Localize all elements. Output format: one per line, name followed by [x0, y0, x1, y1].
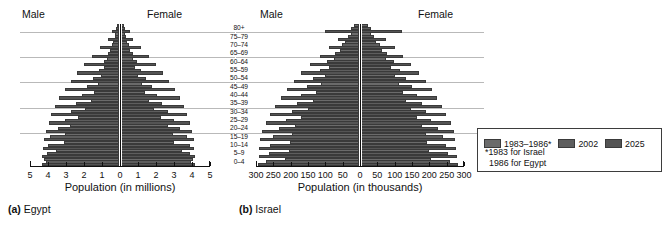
age-group-label: 65–69 [230, 49, 248, 56]
x-tick [429, 162, 430, 166]
bar-male-1986-20–24 [70, 124, 119, 127]
age-group-label: 15–19 [230, 133, 248, 140]
bar-female-2002-10–14 [121, 144, 190, 147]
bar-female-1983-15–19 [361, 133, 426, 136]
bar-male-1983-20–24 [295, 124, 359, 127]
israel-caption-tag: (b) [239, 203, 252, 215]
bar-male-1986-0–4 [44, 158, 119, 161]
x-tick [273, 162, 274, 166]
bar-female-1983-5–9 [361, 149, 429, 152]
bar-female-2002-60–64 [361, 60, 394, 63]
bar-male-1986-55–59 [104, 66, 119, 69]
bar-male-2002-30–34 [71, 110, 119, 113]
bar-female-2002-40–44 [361, 94, 417, 97]
bar-female-2002-50–54 [121, 77, 146, 80]
bar-female-2002-35–39 [361, 102, 422, 105]
bar-female-1983-30–34 [361, 108, 411, 111]
x-tick-label: 0 [117, 170, 122, 180]
bar-male-2002-15–19 [50, 135, 119, 138]
bar-female-1986-25–29 [121, 116, 161, 119]
bar-female-2002-15–19 [361, 135, 443, 138]
bar-male-1986-70–74 [113, 41, 119, 44]
x-tick [343, 162, 344, 166]
bar-female-1983-25–29 [361, 116, 417, 119]
bar-female-1986-40–44 [121, 91, 145, 94]
bar-female-2002-55–59 [121, 69, 141, 72]
age-group-label: 80+ [234, 24, 245, 31]
bar-male-2002-0–4 [266, 160, 359, 163]
bar-male-1983-5–9 [289, 149, 359, 152]
bar-male-2002-20–24 [279, 127, 359, 130]
x-tick-label: 100 [318, 170, 333, 180]
legend-label: 2025 [625, 139, 645, 149]
bar-female-2002-30–34 [121, 110, 168, 113]
x-tick-label: 300 [456, 170, 471, 180]
x-tick-label: 5 [207, 170, 212, 180]
bar-male-2002-70–74 [112, 43, 119, 46]
x-tick [210, 162, 211, 166]
bar-male-1983-55–59 [329, 66, 359, 69]
bar-female-1986-15–19 [121, 133, 173, 136]
bar-male-2002-25–29 [286, 119, 359, 122]
bar-male-2002-40–44 [82, 94, 119, 97]
bar-male-2002-70–74 [342, 43, 359, 46]
panel-egypt: Male Female 54321012345 Population (in m… [0, 0, 240, 225]
bar-female-2002-5–9 [121, 152, 190, 155]
x-tick [66, 162, 67, 166]
bar-female-2002-80+ [361, 27, 371, 30]
x-tick [102, 162, 103, 166]
bar-male-1983-50–54 [325, 74, 359, 77]
legend-label: 2002 [578, 139, 598, 149]
bar-male-1986-60–64 [107, 57, 119, 60]
x-tick-label: 50 [372, 170, 382, 180]
bar-female-1986-0–4 [121, 158, 193, 161]
x-tick [308, 162, 309, 166]
bar-male-2002-20–24 [58, 127, 119, 130]
bar-male-2002-65–69 [335, 52, 359, 55]
bar-male-2002-60–64 [104, 60, 119, 63]
legend-note-line1: *1983 for Israel [485, 147, 545, 157]
bar-male-2002-50–54 [93, 77, 119, 80]
bar-female-1986-70–74 [121, 41, 127, 44]
x-tick-label: 250 [439, 170, 454, 180]
x-tick [84, 162, 85, 166]
bar-female-2002-25–29 [361, 119, 431, 122]
x-axis-line [30, 166, 210, 167]
bar-female-1983-65–69 [361, 49, 382, 52]
x-tick-label: 3 [171, 170, 176, 180]
x-tick [138, 162, 139, 166]
x-axis-line [256, 166, 464, 167]
bar-male-2002-45–49 [87, 85, 119, 88]
bar-male-1986-5–9 [56, 149, 119, 152]
bar-male-1983-10–14 [290, 141, 359, 144]
bar-female-1983-75–79 [361, 32, 371, 35]
bar-female-2002-20–24 [361, 127, 438, 130]
bar-female-2002-65–69 [121, 52, 133, 55]
bar-male-1983-0–4 [285, 158, 359, 161]
bar-female-2002-75–79 [121, 35, 126, 38]
age-group-label: 10–14 [230, 141, 248, 148]
bar-female-1983-40–44 [361, 91, 403, 94]
bar-male-1983-60–64 [334, 57, 359, 60]
age-group-label: 25–29 [230, 116, 248, 123]
israel-plot-area: 30025020015010050050100150200250300 [256, 24, 464, 166]
bar-female-2002-70–74 [361, 43, 380, 46]
bar-male-1986-30–34 [85, 108, 119, 111]
bar-female-1986-65–69 [121, 49, 130, 52]
bar-male-1983-25–29 [301, 116, 359, 119]
age-group-label: 40–44 [230, 91, 248, 98]
bar-female-2002-45–49 [121, 85, 152, 88]
bar-male-1983-35–39 [313, 99, 359, 102]
population-pyramid-figure: Male Female 54321012345 Population (in m… [0, 0, 668, 225]
bar-male-1986-15–19 [65, 133, 119, 136]
x-tick-label: 200 [422, 170, 437, 180]
bar-male-2002-15–19 [273, 135, 359, 138]
x-tick-label: 250 [266, 170, 281, 180]
bar-male-2002-40–44 [301, 94, 359, 97]
bar-female-1983-0–4 [361, 158, 431, 161]
x-tick-label: 200 [283, 170, 298, 180]
bar-male-1983-65–69 [340, 49, 359, 52]
age-group-label: 5–9 [234, 149, 245, 156]
bar-female-1983-45–49 [361, 82, 399, 85]
bar-male-2002-0–4 [46, 160, 119, 163]
